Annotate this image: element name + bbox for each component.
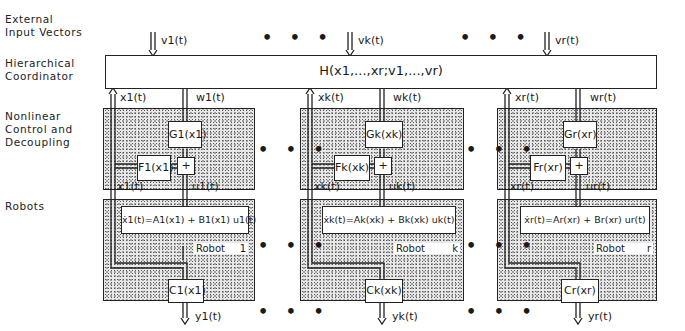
state-up-x1: x1(t) — [120, 91, 146, 104]
state-up-xk: xk(t) — [318, 91, 344, 104]
ellipsis-2: • • • — [258, 236, 330, 255]
input-vk: vk(t) — [358, 34, 384, 47]
robot-label-k: Robot k — [394, 243, 460, 254]
sum-node-1: + — [177, 157, 195, 175]
robot-text: Robot — [196, 243, 225, 254]
hierarchical-coordinator-box: H(x1,...,xr;v1,...,vr) — [105, 55, 657, 89]
ellipsis-6: • • • — [466, 302, 538, 321]
dynamics-block-r: ẋr(t)=Ar(xr) + Br(xr) ur(t) — [520, 206, 650, 234]
ellipsis-1: • • • — [258, 140, 330, 159]
signal-w1: w1(t) — [196, 91, 225, 104]
control-uk: uk(t) — [389, 180, 415, 193]
sum-node-r: + — [570, 157, 588, 175]
output-yk: yk(t) — [392, 310, 418, 323]
G-block-k: Gk(xk) — [365, 121, 403, 148]
dynamics-block-k: ẋk(t)=Ak(xk) + Bk(xk) uk(t) — [322, 206, 456, 234]
ellipsis-top-1: • • • — [262, 28, 334, 47]
robot-id: k — [452, 243, 458, 254]
output-yr: yr(t) — [588, 310, 612, 323]
robot-text: Robot — [396, 243, 425, 254]
state-fb-x1: x1(t) — [117, 180, 143, 193]
sum-node-k: + — [374, 157, 392, 175]
robot-label-1: Robot 1 — [194, 243, 248, 254]
input-vr: vr(t) — [555, 34, 579, 47]
robot-id: r — [647, 243, 651, 254]
ellipsis-5: • • • — [466, 236, 538, 255]
C-block-r: Cr(xr) — [561, 279, 599, 303]
ellipsis-4: • • • — [466, 140, 538, 159]
robot-label-r: Robot r — [594, 243, 653, 254]
ellipsis-3: • • • — [258, 302, 330, 321]
signal-wr: wr(t) — [590, 91, 616, 104]
G-block-1: G1(x1) — [168, 121, 202, 148]
state-fb-xr: xr(t) — [510, 180, 534, 193]
robot-id: 1 — [240, 243, 246, 254]
signal-wk: wk(t) — [393, 91, 421, 104]
dynamics-block-1: ẋ1(t)=A1(x1) + B1(x1) u1(t) — [121, 206, 249, 234]
output-y1: y1(t) — [195, 310, 221, 323]
state-up-xr: xr(t) — [515, 91, 539, 104]
state-fb-xk: xk(t) — [314, 180, 340, 193]
control-ur: ur(t) — [586, 180, 610, 193]
F-block-k: Fk(xk) — [334, 155, 370, 181]
C-block-k: Ck(xk) — [365, 279, 403, 303]
F-block-1: F1(x1) — [137, 155, 171, 181]
control-u1: u1(t) — [192, 180, 219, 193]
coordinator-function: H(x1,...,xr;v1,...,vr) — [106, 63, 656, 78]
ellipsis-top-2: • • • — [460, 28, 532, 47]
C-block-1: C1(x1) — [168, 279, 204, 303]
G-block-r: Gr(xr) — [563, 121, 597, 148]
F-block-r: Fr(xr) — [530, 155, 566, 181]
input-v1: v1(t) — [161, 34, 187, 47]
robot-text: Robot — [596, 243, 625, 254]
